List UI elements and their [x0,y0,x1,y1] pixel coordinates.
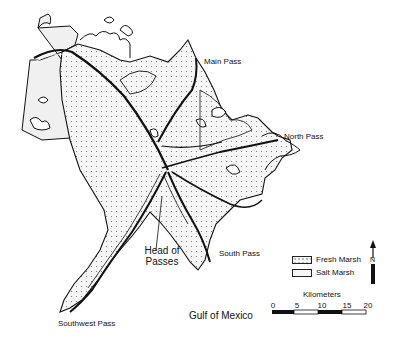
label-head-of-passes: Head of Passes [142,245,182,267]
legend-fresh-marsh: Fresh Marsh [292,255,361,264]
label-south-pass: South Pass [219,249,260,258]
salt-marsh-swatch [292,269,312,277]
label-gulf-of-mexico: Gulf of Mexico [189,310,253,321]
legend-salt-marsh: Salt Marsh [292,268,354,277]
north-label: N [370,255,375,264]
fresh-marsh-swatch [292,256,312,264]
scale-tick-15: 15 [343,301,352,310]
scale-tick-5: 5 [295,301,299,310]
label-main-pass: Main Pass [204,57,241,66]
label-head-of-passes-line2: Passes [142,256,182,267]
scale-tick-20: 20 [364,301,373,310]
scale-title: Kilometers [303,290,341,299]
legend-fresh-marsh-label: Fresh Marsh [316,255,361,264]
scale-tick-10: 10 [318,301,327,310]
scale-bar [272,310,366,314]
label-southwest-pass: Southwest Pass [58,319,115,328]
legend-salt-marsh-label: Salt Marsh [316,268,354,277]
delta-marsh-map: Main Pass North Pass South Pass Head of … [0,0,396,337]
fresh-marsh-delta [60,40,292,312]
scale-tick-0: 0 [271,301,275,310]
map-drawing [0,0,396,337]
label-north-pass: North Pass [284,132,324,141]
label-head-of-passes-line1: Head of [142,245,182,256]
